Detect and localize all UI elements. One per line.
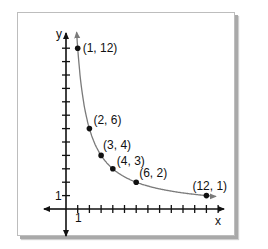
x-tick-label-1: 1 <box>75 211 82 225</box>
point-label: (6, 2) <box>139 166 167 180</box>
y-tick-label-1: 1 <box>55 189 62 203</box>
point-label: (3, 4) <box>103 138 131 152</box>
point-label: (12, 1) <box>192 179 227 193</box>
data-point <box>87 126 93 132</box>
data-point <box>98 153 104 159</box>
data-point <box>110 166 116 172</box>
x-axis-label: x <box>215 214 221 228</box>
data-point <box>204 193 210 199</box>
point-label: (2, 6) <box>93 113 121 127</box>
coordinate-plane: y x 1 1 (1, 12)(2, 6)(3, 4)(4, 3)(6, 2)(… <box>0 0 268 249</box>
data-points: (1, 12)(2, 6)(3, 4)(4, 3)(6, 2)(12, 1) <box>75 41 227 198</box>
point-label: (1, 12) <box>83 41 118 55</box>
data-point <box>75 45 81 51</box>
y-axis-label: y <box>56 27 62 41</box>
data-point <box>133 179 139 185</box>
axes <box>44 33 224 236</box>
